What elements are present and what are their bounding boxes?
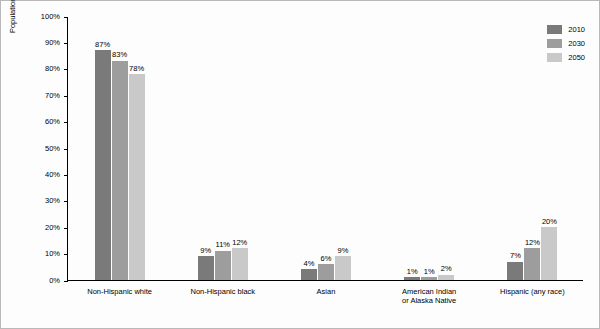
bars: 9%11%12% [171,17,274,280]
y-axis-tick: 80% [2,69,68,70]
bar-value-label: 83% [112,51,127,59]
x-axis-category-label: American Indianor Alaska Native [402,287,456,306]
bar-value-label: 12% [525,239,540,247]
legend-swatch [547,39,562,48]
y-axis-tick: 0% [2,281,68,282]
bar-value-label: 9% [200,247,211,255]
bar-group: 9%11%12%Non-Hispanic black [171,17,274,280]
x-axis-category-label: Hispanic (any race) [500,287,565,296]
y-axis-tick-label: 50% [26,145,60,153]
bar-group: 4%6%9%Asian [274,17,377,280]
bar-value-label: 2% [441,265,452,273]
x-axis-category-label: Non-Hispanic black [190,287,255,296]
y-axis-tick: 60% [2,122,68,123]
bar[interactable]: 11% [215,251,231,280]
chart-container: Population aged 65 or older 0%10%20%30%4… [0,0,600,329]
bar-value-label: 12% [232,239,247,247]
bar-value-label: 20% [542,218,557,226]
y-axis-tick: 10% [2,254,68,255]
y-axis-tick: 50% [2,149,68,150]
plot-area: 0%10%20%30%40%50%60%70%80%90%100% 87%83%… [67,17,583,281]
y-axis-title: Population aged 65 or older [8,0,17,67]
y-axis-tick-label: 60% [26,118,60,126]
x-axis-category-line: Non-Hispanic black [190,287,255,296]
y-axis-tick: 20% [2,228,68,229]
bar-value-label: 87% [95,41,110,49]
bar[interactable]: 87% [95,50,111,280]
bar[interactable]: 12% [524,248,540,280]
y-axis-tick-mark [64,281,68,282]
legend-item[interactable]: 2010 [547,25,585,34]
bar-group: 1%1%2%American Indianor Alaska Native [378,17,481,280]
x-axis-category-line: or Alaska Native [402,296,456,305]
legend-swatch [547,25,562,34]
x-axis-category-line: Non-Hispanic white [87,287,152,296]
y-axis-tick: 90% [2,43,68,44]
y-axis-tick-label: 40% [26,171,60,179]
y-axis-tick-label: 30% [26,197,60,205]
bar[interactable]: 2% [438,275,454,280]
y-axis-tick-label: 0% [26,277,60,285]
bar[interactable]: 9% [335,256,351,280]
y-axis-tick: 70% [2,96,68,97]
legend-swatch [547,53,562,62]
x-axis-category-label: Non-Hispanic white [87,287,152,296]
x-axis-category-line: American Indian [402,287,456,296]
bar-groups: 87%83%78%Non-Hispanic white9%11%12%Non-H… [68,17,583,280]
bar-value-label: 7% [510,252,521,260]
legend-label: 2050 [568,53,585,62]
bar-group: 87%83%78%Non-Hispanic white [68,17,171,280]
y-axis-tick-label: 10% [26,250,60,258]
bar[interactable]: 7% [507,262,523,280]
bar-value-label: 1% [407,268,418,276]
legend-label: 2030 [568,39,585,48]
legend-item[interactable]: 2050 [547,53,585,62]
x-axis-category-label: Asian [317,287,336,296]
y-axis-title-wrapper: Population aged 65 or older [9,1,23,265]
y-axis-tick: 40% [2,175,68,176]
y-axis-tick-label: 80% [26,65,60,73]
bars: 87%83%78% [68,17,171,280]
y-axis-tick-label: 100% [26,13,60,21]
bar[interactable]: 6% [318,264,334,280]
bar[interactable]: 1% [404,277,420,280]
bar-value-label: 1% [424,268,435,276]
y-axis-tick: 100% [2,17,68,18]
bar-value-label: 9% [338,247,349,255]
bar-value-label: 6% [321,255,332,263]
bar[interactable]: 9% [198,256,214,280]
bar[interactable]: 78% [129,74,145,280]
bar-value-label: 11% [216,241,230,249]
legend-label: 2010 [568,25,585,34]
bar[interactable]: 12% [232,248,248,280]
bar[interactable]: 20% [541,227,557,280]
bar[interactable]: 1% [421,277,437,280]
y-axis-tick: 30% [2,201,68,202]
y-axis-tick-label: 70% [26,92,60,100]
bar-value-label: 78% [129,65,144,73]
bar[interactable]: 4% [301,269,317,280]
x-axis-category-line: Asian [317,287,336,296]
y-axis-tick-label: 20% [26,224,60,232]
bar[interactable]: 83% [112,61,128,280]
legend: 201020302050 [547,25,585,67]
bars: 4%6%9% [274,17,377,280]
bar-value-label: 4% [304,260,315,268]
bars: 1%1%2% [378,17,481,280]
y-axis-tick-label: 90% [26,39,60,47]
x-axis-category-line: Hispanic (any race) [500,287,565,296]
legend-item[interactable]: 2030 [547,39,585,48]
